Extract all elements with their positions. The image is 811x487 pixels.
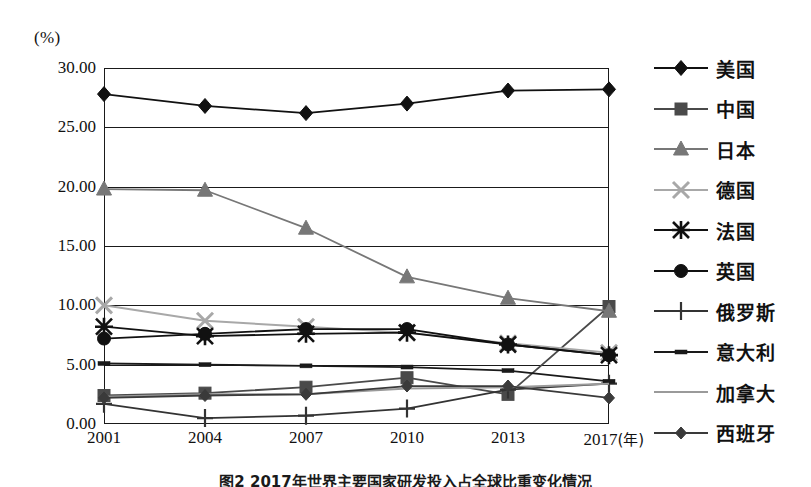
legend-label: 俄罗斯 — [716, 298, 776, 325]
y-tick-label: 20.00 — [18, 177, 96, 197]
legend-label: 日本 — [716, 136, 756, 163]
legend-label: 美国 — [716, 55, 756, 82]
y-tick-label: 5.00 — [18, 355, 96, 375]
plot-area — [104, 68, 609, 424]
legend-item-6[interactable]: 俄罗斯 — [652, 291, 807, 332]
legend-item-7[interactable]: 意大利 — [652, 332, 807, 373]
legend-item-9[interactable]: 西班牙 — [652, 413, 807, 454]
x-tick-label: 2001 — [87, 428, 121, 448]
legend-item-5[interactable]: 英国 — [652, 251, 807, 292]
series-0 — [98, 82, 616, 121]
x-tick-label: 2010 — [390, 428, 424, 448]
legend-item-2[interactable]: 日本 — [652, 129, 807, 170]
legend-item-0[interactable]: 美国 — [652, 48, 807, 89]
triangle-icon — [652, 138, 710, 160]
series-5 — [98, 323, 616, 362]
figure-caption: 图2 2017年世界主要国家研发投入占全球比重变化情况 — [0, 470, 811, 487]
legend-label: 法国 — [716, 217, 756, 244]
diamond-small-icon — [652, 422, 710, 444]
legend-label: 中国 — [716, 95, 756, 122]
legend-item-8[interactable]: 加拿大 — [652, 372, 807, 413]
plus-icon — [652, 300, 710, 322]
y-axis-unit-label: (%) — [34, 28, 60, 48]
line-only-icon — [652, 381, 710, 403]
dash-icon — [652, 341, 710, 363]
x-tick-label: 2013 — [491, 428, 525, 448]
y-tick-label: 0.00 — [18, 414, 96, 434]
y-tick-label: 25.00 — [18, 117, 96, 137]
legend: 美国中国日本德国法国英国俄罗斯意大利加拿大西班牙 — [652, 48, 807, 453]
legend-item-1[interactable]: 中国 — [652, 89, 807, 130]
series-2 — [97, 181, 617, 317]
circle-icon — [652, 260, 710, 282]
x-axis-tick-labels: 200120042007201020132017(年) — [104, 428, 609, 456]
legend-label: 西班牙 — [716, 419, 776, 446]
y-axis-tick-labels: 30.0025.0020.0015.0010.005.000.00 — [16, 68, 96, 424]
y-tick-label: 30.00 — [18, 58, 96, 78]
x-tick-label: 2017(年) — [583, 428, 644, 450]
y-tick-label: 15.00 — [18, 236, 96, 256]
asterisk-icon — [652, 219, 710, 241]
series-layer — [104, 68, 609, 424]
x-tick-label: 2004 — [188, 428, 222, 448]
y-tick-label: 10.00 — [18, 295, 96, 315]
legend-label: 英国 — [716, 257, 756, 284]
legend-label: 德国 — [716, 176, 756, 203]
legend-item-4[interactable]: 法国 — [652, 210, 807, 251]
figure-container: (%) 30.0025.0020.0015.0010.005.000.00 20… — [0, 0, 811, 487]
x-tick-label: 2007 — [289, 428, 323, 448]
square-icon — [652, 98, 710, 120]
cross-x-icon — [652, 179, 710, 201]
legend-label: 意大利 — [716, 338, 776, 365]
legend-item-3[interactable]: 德国 — [652, 170, 807, 211]
x-axis-unit-label: (年) — [617, 431, 644, 449]
legend-label: 加拿大 — [716, 379, 776, 406]
series-4 — [95, 318, 618, 364]
diamond-icon — [652, 57, 710, 79]
series-7 — [98, 361, 615, 383]
